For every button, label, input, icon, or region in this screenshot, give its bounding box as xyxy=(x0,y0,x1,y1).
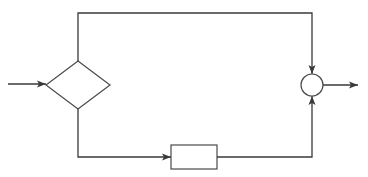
upper-path-connector xyxy=(78,13,316,74)
block-to-junction-connector xyxy=(217,96,316,157)
output-arrow xyxy=(323,82,358,89)
decision-diamond xyxy=(46,61,110,109)
lower-path-connector xyxy=(78,109,171,161)
summing-junction xyxy=(301,74,323,96)
process-block xyxy=(171,145,217,169)
input-arrow xyxy=(8,81,46,88)
block-diagram xyxy=(0,0,368,177)
